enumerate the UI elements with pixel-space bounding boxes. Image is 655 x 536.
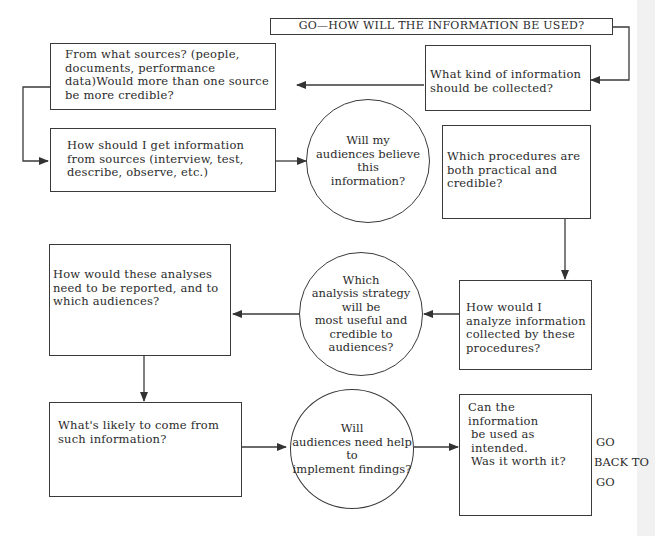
node-procedures: Which procedures are both practical and … [442,125,591,219]
node-strategy-line: credible to audiences? [300,328,422,355]
node-how-get: How should I get information from source… [50,128,276,192]
node-help-line: implement findings? [291,463,413,477]
go-back-label-2: BACK TO [594,455,649,469]
go-start-box: GO—HOW WILL THE INFORMATION BE USED? [270,18,613,35]
node-strategy-line: analysis strategy will be [300,287,422,314]
node-sources-text: From what sources? (people, documents, p… [65,47,269,102]
node-strategy: Which analysis strategy will be most use… [299,252,423,376]
node-believe-line: information? [307,175,429,189]
node-how-get-text: How should I get information from source… [67,138,244,179]
node-likely: What's likely to come from such informat… [49,402,242,497]
node-help-line: Will [291,422,413,436]
node-procedures-text: Which procedures are both practical and … [447,149,580,190]
node-believe: Will my audiences believe this informati… [306,99,430,223]
node-what-kind: What kind of information should be colle… [425,45,591,111]
node-analyze: How would I analyze information collecte… [459,280,592,370]
node-believe-line: audiences believe this [307,148,429,175]
node-help: Will audiences need help to implement fi… [290,389,414,509]
node-strategy-line: Which [300,274,422,288]
node-believe-line: Will my [307,134,429,148]
go-back-label-1: GO [596,435,615,449]
node-analyze-text: How would I analyze information collecte… [466,300,586,355]
node-worth-line: Can the information [468,401,587,428]
node-worth-line: Was it worth it? [468,455,587,469]
node-reported-text: How would these analyses need to be repo… [53,267,218,308]
node-strategy-line: most useful and [300,314,422,328]
node-help-line: audiences need help to [291,436,413,463]
go-back-label-3: GO [596,475,615,489]
node-sources: From what sources? (people, documents, p… [50,43,276,110]
node-worth-line: be used as intended. [468,428,587,455]
node-what-kind-text: What kind of information should be colle… [430,67,581,95]
node-likely-text: What's likely to come from such informat… [58,418,219,446]
node-reported: How would these analyses need to be repo… [49,244,231,356]
node-worth: Can the information be used as intended.… [459,394,592,516]
